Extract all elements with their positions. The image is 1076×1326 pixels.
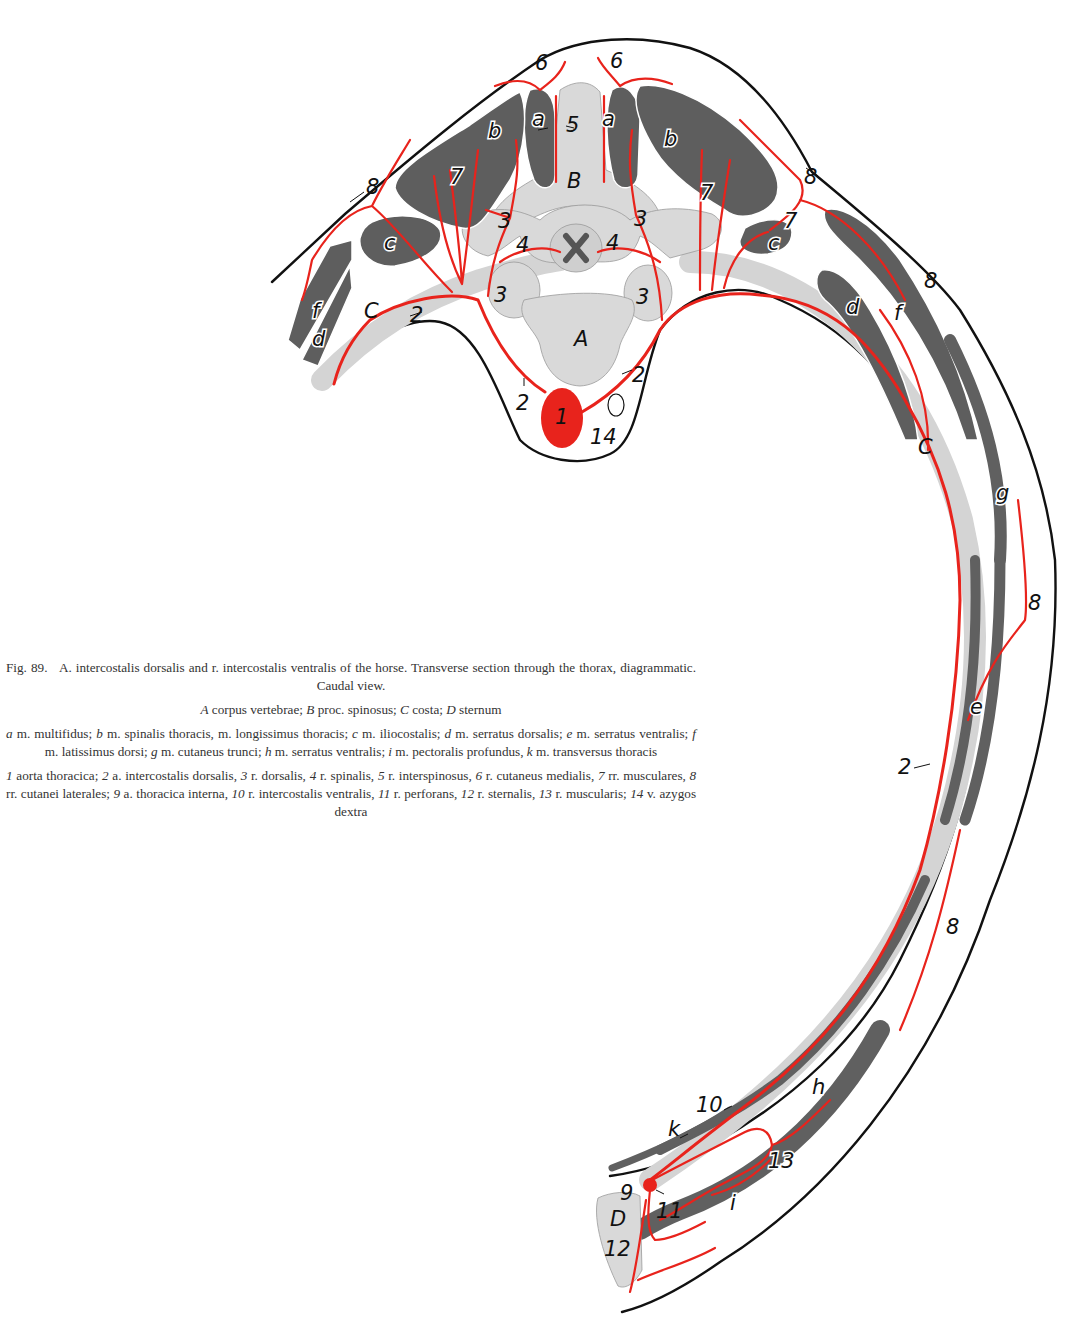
caption-muscles-legend: a m. multifidus; b m. spinalis thoracis,…	[6, 725, 696, 761]
label-vessel-6-left: 6	[535, 51, 548, 75]
label-vessel-2-right-low: 2	[632, 363, 645, 387]
caption-fig-number: Fig. 89.	[6, 660, 47, 675]
label-vessel-2-left-rib: 2	[410, 303, 423, 327]
label-muscle-k: k	[668, 1117, 681, 1141]
label-vessel-3-lr: 3	[636, 285, 649, 309]
label-muscle-b-left: b	[488, 119, 501, 143]
label-vessel-2-lateral: 2	[898, 755, 911, 779]
muscle-a-right	[607, 87, 640, 188]
label-vessel-1: 1	[555, 405, 568, 429]
label-muscle-c-right: c	[768, 231, 780, 255]
label-vessel-14: 14	[590, 425, 617, 449]
label-vessel-6-right: 6	[610, 49, 623, 73]
muscle-c-left	[360, 216, 441, 266]
label-vessel-8-right-2: 8	[924, 269, 937, 293]
label-vessel-8-right-4: 8	[946, 915, 959, 939]
label-vessel-3-ur: 3	[634, 207, 647, 231]
label-vessel-3-ul: 3	[498, 209, 511, 233]
label-muscle-b-right: b	[664, 127, 677, 151]
label-vessel-5: 5	[566, 113, 579, 137]
label-vessel-10: 10	[696, 1093, 723, 1117]
label-vessel-7-left: 7	[450, 165, 464, 189]
label-muscle-g: g	[996, 481, 1009, 505]
label-vessel-3-ll: 3	[494, 283, 507, 307]
label-muscle-e: e	[970, 695, 983, 719]
label-vessel-13: 13	[768, 1149, 795, 1173]
vena-azygos	[608, 394, 624, 416]
label-vessel-11: 11	[656, 1199, 683, 1223]
label-vessel-4-right: 4	[606, 231, 619, 255]
caption-vessels-legend: 1 aorta thoracica; 2 a. intercostalis do…	[6, 767, 696, 821]
muscle-a-left	[524, 89, 555, 188]
label-muscle-a-right: a	[602, 107, 615, 131]
caption-title-text: A. intercostalis dorsalis and r. interco…	[59, 660, 696, 693]
caption-title: Fig. 89. A. intercostalis dorsalis and r…	[6, 659, 696, 695]
label-bone-B: B	[567, 169, 581, 193]
label-muscle-a-left: a	[532, 107, 545, 131]
label-vessel-4-left: 4	[516, 233, 529, 257]
label-vessel-8-left: 8	[366, 175, 379, 199]
label-vessel-8-right-3: 8	[1028, 591, 1041, 615]
label-bone-C-left: C	[364, 299, 379, 323]
label-vessel-7-right-c: 7	[784, 209, 798, 233]
label-bone-C-right: C	[918, 435, 933, 459]
label-bone-A: A	[572, 327, 588, 351]
label-muscle-d-left: d	[312, 327, 326, 351]
label-vessel-7-right-upper: 7	[700, 181, 714, 205]
figure-caption: Fig. 89. A. intercostalis dorsalis and r…	[6, 659, 696, 827]
caption-bones-legend: A corpus vertebrae; B proc. spinosus; C …	[6, 701, 696, 719]
label-vessel-9: 9	[620, 1181, 633, 1205]
label-vessel-2-left-low: 2	[516, 391, 529, 415]
label-muscle-d-right: d	[846, 295, 860, 319]
label-bone-D: D	[610, 1207, 626, 1231]
label-muscle-h: h	[812, 1075, 825, 1099]
label-vessel-12: 12	[604, 1237, 631, 1261]
label-muscle-c-left: c	[384, 231, 396, 255]
label-muscle-i: i	[730, 1191, 736, 1215]
label-vessel-8-top-right: 8	[804, 165, 817, 189]
